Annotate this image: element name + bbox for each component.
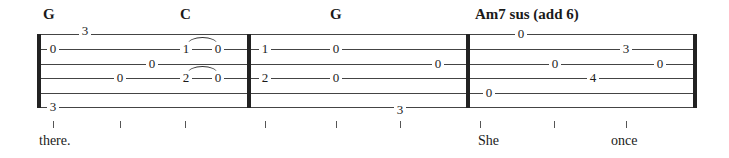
fret-number: 0 (330, 71, 342, 84)
fret-number: 0 (114, 71, 126, 84)
barline (247, 34, 251, 108)
fret-number: 0 (146, 57, 158, 70)
beat-tick (120, 121, 121, 128)
fret-number: 0 (47, 42, 59, 55)
fret-number: 0 (549, 57, 561, 70)
fret-number: 0 (432, 57, 444, 70)
fret-number: 3 (394, 103, 406, 116)
chord-label: G (330, 6, 342, 23)
barline (37, 34, 41, 108)
beat-tick (265, 121, 266, 128)
chord-label: C (180, 6, 191, 23)
fret-number: 3 (620, 42, 632, 55)
fret-number: 0 (483, 86, 495, 99)
lyric-word: She (478, 133, 499, 149)
barline (693, 34, 697, 108)
string-line-3 (38, 64, 697, 65)
beat-tick (185, 121, 186, 128)
string-line-2 (38, 49, 697, 50)
string-line-6 (38, 107, 697, 108)
string-line-1 (38, 34, 697, 35)
lyric-word: there. (39, 133, 70, 149)
fret-number: 3 (79, 24, 91, 37)
chord-label: Am7 sus (add 6) (475, 6, 579, 23)
fret-number: 1 (180, 42, 192, 55)
beat-tick (336, 121, 337, 128)
fret-number: 0 (330, 42, 342, 55)
beat-tick (53, 121, 54, 128)
string-line-5 (38, 93, 697, 94)
beat-tick (626, 121, 627, 128)
lyric-word: once (611, 133, 637, 149)
fret-number: 2 (259, 71, 271, 84)
beat-tick (480, 121, 481, 128)
fret-number: 2 (180, 71, 192, 84)
chord-label: G (43, 6, 55, 23)
barline (466, 34, 470, 108)
fret-number: 0 (515, 27, 527, 40)
beat-tick (400, 121, 401, 128)
fret-number: 3 (47, 100, 59, 113)
fret-number: 4 (587, 71, 599, 84)
fret-number: 0 (654, 57, 666, 70)
fret-number: 0 (212, 42, 224, 55)
guitar-tablature: GCGAm7 sus (add 6) 033001020120003000430… (0, 0, 729, 158)
beat-tick (554, 121, 555, 128)
fret-number: 0 (212, 71, 224, 84)
fret-number: 1 (259, 42, 271, 55)
